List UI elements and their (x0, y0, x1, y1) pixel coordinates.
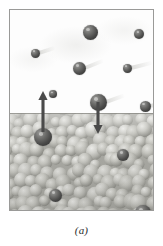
vapor-phase-molecule (134, 29, 144, 39)
vapor-phase-molecule (31, 49, 40, 58)
liquid-region (10, 113, 153, 211)
evaporation-arrow (35, 87, 51, 136)
liquid-sphere-texture (10, 113, 153, 211)
condensation-arrow (90, 98, 106, 138)
vapor-phase-molecule (73, 62, 86, 75)
liquid-phase-molecule (49, 189, 62, 202)
vapor-phase-molecule (83, 25, 98, 40)
figure-caption: (a) (0, 224, 163, 236)
illustration-panel (9, 9, 154, 211)
liquid-surface-line (10, 113, 153, 114)
vapor-phase-molecule (123, 64, 132, 73)
vapor-phase-molecule (140, 101, 151, 112)
figure-root: (a) (0, 0, 163, 246)
liquid-phase-molecule (117, 149, 129, 161)
